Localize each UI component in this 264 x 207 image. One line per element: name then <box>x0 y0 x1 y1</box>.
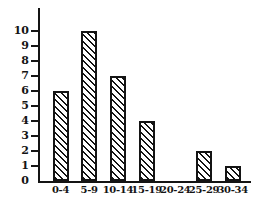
y-tick-label: 0 <box>0 174 29 187</box>
y-tick-label: 7 <box>0 69 29 82</box>
y-tick-label: 9 <box>0 39 29 52</box>
y-tick-label: 10 <box>0 24 29 37</box>
y-tick <box>31 60 39 62</box>
y-tick <box>31 135 39 137</box>
y-tick <box>31 75 39 77</box>
y-tick <box>31 105 39 107</box>
bar-chart: 0123456789100-45-910-1415-1920-2425-2930… <box>0 0 264 207</box>
y-tick-label: 3 <box>0 129 29 142</box>
bar-0-4 <box>53 91 69 181</box>
y-tick <box>31 45 39 47</box>
y-tick-label: 5 <box>0 99 29 112</box>
x-axis-line <box>38 181 251 183</box>
y-tick <box>31 120 39 122</box>
x-tick-label: 30-34 <box>215 184 251 196</box>
bar-10-14 <box>110 76 126 181</box>
bar-30-34 <box>225 166 241 181</box>
bar-5-9 <box>81 31 97 181</box>
bar-15-19 <box>139 121 155 181</box>
bar-25-29 <box>196 151 212 181</box>
y-tick <box>31 90 39 92</box>
y-axis-line <box>38 8 40 183</box>
y-tick <box>31 30 39 32</box>
y-tick-label: 4 <box>0 114 29 127</box>
y-tick-label: 1 <box>0 159 29 172</box>
y-tick <box>31 165 39 167</box>
y-tick-label: 2 <box>0 144 29 157</box>
y-tick-label: 6 <box>0 84 29 97</box>
y-tick <box>31 150 39 152</box>
y-tick-label: 8 <box>0 54 29 67</box>
